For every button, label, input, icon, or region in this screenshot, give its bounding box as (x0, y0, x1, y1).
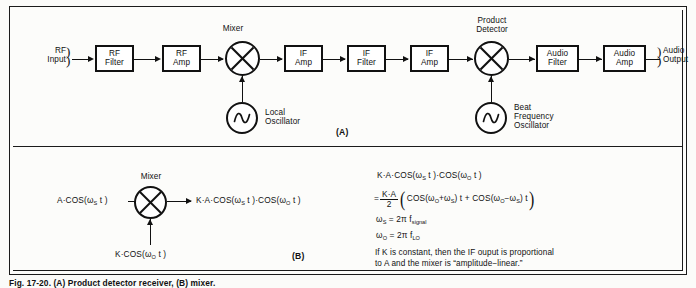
math-l2-paren-close: ) (529, 190, 534, 208)
arrow-into-rf-amp (155, 56, 161, 62)
bfo-line3: Oscillator (514, 121, 549, 130)
sine-wave-icon (228, 104, 256, 132)
sine-wave-icon (477, 104, 505, 132)
math-line-2: =K·A2(COS(ωO+ωS) t + COS(ωO−ωS) t) (374, 190, 535, 208)
product-detector-symbol[interactable] (474, 41, 509, 76)
block-audio-filter[interactable]: Audio Filter (536, 45, 579, 72)
arrow-into-mixer (218, 56, 224, 62)
local-oscillator-line1: Local (265, 108, 285, 117)
arrow-into-product-detector (467, 56, 473, 62)
arrow-into-if-amp-1 (277, 56, 283, 62)
math-l2-ip1: COS(ω (407, 193, 435, 203)
beat-frequency-oscillator-label: Beat Frequency Oscillator (514, 103, 554, 131)
input-lo-prefix: K·COS(ω (115, 249, 152, 259)
math-l2-ip3: ) t + COS(ω (454, 193, 500, 203)
arrow-into-if-filter (340, 56, 346, 62)
math-l1-p1: K·A·COS(ω (377, 170, 422, 180)
math-l1-p2: t )·COS(ω (426, 170, 467, 180)
math-prose-line1: If K is constant, then the IF ouput is p… (375, 248, 554, 257)
audio-output-bracket-bottom: ) (657, 54, 661, 67)
audio-output-line1: Audio (663, 46, 684, 55)
block-rf-amp-line2: Amp (173, 59, 190, 67)
rf-input-bracket-bottom: ) (66, 54, 70, 67)
math-l2-paren-open: ( (400, 190, 405, 208)
block-rf-filter[interactable]: RF Filter (95, 45, 134, 72)
panel-b-input-lo-expression: K·COS(ωO t ) (115, 250, 166, 260)
bfo-line1: Beat (514, 103, 531, 112)
math-l1-p3: t ) (471, 170, 481, 180)
block-if-amp-1[interactable]: IF Amp (284, 45, 323, 72)
math-prose: If K is constant, then the IF ouput is p… (375, 248, 554, 269)
product-detector-line2: Detector (476, 25, 508, 34)
figure-caption: Fig. 17-20. (A) Product detector receive… (9, 278, 215, 288)
math-l4-rhs-p: = 2π f (387, 230, 412, 240)
arrow-into-if-amp-2 (403, 56, 409, 62)
panel-a-tag: (A) (336, 127, 349, 137)
math-l3-rhs-p: = 2π f (386, 214, 411, 224)
mixer-cross-icon (227, 43, 258, 74)
output-p2: t )·COS(ω (245, 195, 286, 205)
block-if-amp-2[interactable]: IF Amp (410, 45, 449, 72)
block-rf-filter-line2: Filter (105, 59, 124, 67)
math-prose-line2: to A and the mixer is “amplitude−linear.… (375, 259, 523, 268)
block-if-filter[interactable]: IF Filter (347, 45, 386, 72)
figure-page: RF Input ) ) RF Filter RF Amp Mixer (0, 0, 696, 288)
beat-frequency-oscillator-symbol[interactable] (475, 102, 507, 134)
audio-output-line2: Output (663, 55, 688, 64)
math-l2-frac-den: 2 (380, 199, 398, 208)
panel-b-output-expression: K·A·COS(ωS t )·COS(ωO t ) (196, 196, 301, 206)
output-p1: K·A·COS(ω (196, 195, 241, 205)
product-detector-label: Product Detector (450, 16, 534, 34)
block-rf-amp[interactable]: RF Amp (162, 45, 201, 72)
arrow-into-rf-filter (88, 56, 94, 62)
rf-input-line1: RF (55, 46, 66, 55)
math-l2-ip4: −ω (505, 193, 517, 203)
math-l3-lhs-p: ω (376, 214, 383, 224)
math-line-1: K·A·COS(ωS t )·COS(ωO t ) (377, 171, 482, 181)
rf-input-line2: Input (47, 55, 66, 64)
arrow-into-product-detector-from-bfo (488, 76, 494, 82)
panel-b-tag: (B) (292, 251, 305, 261)
bfo-line2: Frequency (514, 112, 554, 121)
math-l2-eq: = (374, 193, 379, 203)
input-lo-suffix: t ) (156, 249, 166, 259)
math-l4-rhs-s: LO (412, 235, 419, 241)
local-oscillator-line2: Oscillator (265, 117, 300, 126)
arrow-panel-b-output (186, 198, 192, 204)
local-oscillator-label: Local Oscillator (265, 108, 300, 126)
product-detector-line1: Product (478, 16, 507, 25)
block-if-amp-2-line2: Amp (421, 59, 438, 67)
math-line-3: ωS = 2π fsignal (376, 215, 426, 225)
panel-b-mixer-label: Mixer (121, 172, 181, 181)
block-audio-filter-line2: Filter (548, 59, 567, 67)
math-l2-ip2: +ω (439, 193, 451, 203)
math-l2-frac-num: K·A (380, 190, 398, 198)
math-l2-fraction: K·A2 (380, 190, 398, 208)
input-signal-suffix: t ) (97, 195, 107, 205)
audio-output-label: Audio Output (663, 46, 688, 64)
output-p3: t ) (290, 195, 300, 205)
input-signal-prefix: A·COS(ω (57, 195, 94, 205)
panel-b-mixer-symbol[interactable] (134, 186, 167, 219)
mixer-label: Mixer (200, 24, 266, 33)
block-if-amp-1-line2: Amp (295, 59, 312, 67)
panel-b-input-signal-expression: A·COS(ωS t ) (57, 196, 108, 206)
block-if-filter-line2: Filter (357, 59, 376, 67)
arrow-panel-b-into-mixer-lo (147, 219, 153, 225)
local-oscillator-symbol[interactable] (226, 102, 258, 134)
mixer-symbol[interactable] (225, 41, 260, 76)
math-line-4: ωO = 2π fLO (376, 231, 420, 241)
panel-divider (13, 146, 683, 147)
arrow-into-audio-amp (596, 56, 602, 62)
arrow-into-mixer-from-lo (239, 76, 245, 82)
block-audio-amp[interactable]: Audio Amp (603, 45, 646, 72)
math-l4-lhs-p: ω (376, 230, 383, 240)
block-audio-amp-line2: Amp (616, 59, 633, 67)
math-l3-rhs-s: signal (412, 219, 427, 225)
rf-input-label: RF Input (22, 46, 66, 64)
product-detector-cross-icon (476, 43, 507, 74)
arrow-into-audio-filter (529, 56, 535, 62)
mixer-cross-icon (136, 188, 165, 217)
math-l2-ip5: ) t (520, 193, 528, 203)
